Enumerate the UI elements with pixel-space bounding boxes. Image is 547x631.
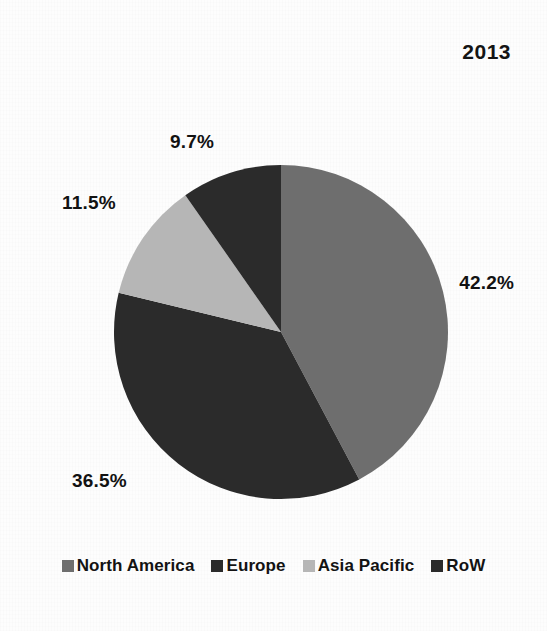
pie-chart <box>113 164 449 500</box>
legend-item-europe[interactable]: Europe <box>211 556 285 576</box>
legend-item-asia-pacific[interactable]: Asia Pacific <box>303 556 415 576</box>
pie-slice-group <box>114 165 448 499</box>
slice-label-asia-pacific: 11.5% <box>62 192 116 214</box>
slice-label-europe: 36.5% <box>72 470 127 492</box>
legend-swatch-north-america <box>62 560 74 572</box>
legend-label-asia-pacific: Asia Pacific <box>318 556 415 576</box>
legend-swatch-asia-pacific <box>303 560 315 572</box>
legend-swatch-row <box>431 560 443 572</box>
chart-legend: North AmericaEuropeAsia PacificRoW <box>0 556 547 576</box>
pie-chart-svg <box>113 164 449 500</box>
legend-label-europe: Europe <box>226 556 285 576</box>
slice-label-row: 9.7% <box>170 131 214 153</box>
chart-page: 2013 42.2% 36.5% 11.5% 9.7% North Americ… <box>0 0 547 631</box>
legend-label-row: RoW <box>446 556 485 576</box>
legend-swatch-europe <box>211 560 223 572</box>
chart-title: 2013 <box>462 40 511 64</box>
legend-item-row[interactable]: RoW <box>431 556 485 576</box>
slice-label-north-america: 42.2% <box>459 272 514 294</box>
legend-label-north-america: North America <box>77 556 195 576</box>
legend-item-north-america[interactable]: North America <box>62 556 195 576</box>
